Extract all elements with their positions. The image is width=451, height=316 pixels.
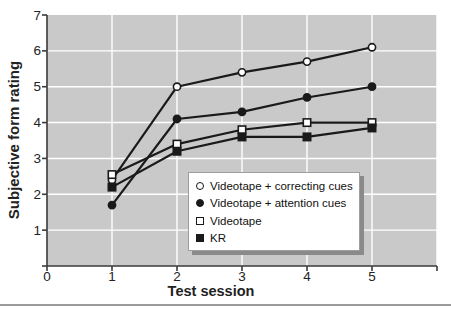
legend-item-videotape-correcting-cues: Videotape + correcting cues bbox=[196, 177, 359, 195]
filled-square-marker bbox=[368, 124, 375, 131]
filled-circle-marker-icon bbox=[196, 199, 204, 207]
page-divider-line bbox=[0, 304, 451, 306]
filled-circle-marker bbox=[173, 115, 180, 122]
chart-figure: 0123451234567 Subjective form rating Tes… bbox=[0, 0, 451, 316]
filled-circle-marker bbox=[303, 94, 310, 101]
open-circle-marker bbox=[368, 44, 375, 51]
legend-label: KR bbox=[210, 232, 226, 244]
line-chart-canvas: 0123451234567 bbox=[0, 0, 451, 316]
x-tick-label: 3 bbox=[238, 269, 246, 284]
x-tick-label: 0 bbox=[43, 269, 51, 284]
open-circle-marker-icon bbox=[196, 182, 204, 190]
legend-label: Videotape bbox=[210, 215, 262, 227]
x-tick-label: 5 bbox=[368, 269, 376, 284]
y-tick-label: 4 bbox=[33, 115, 41, 130]
filled-circle-marker bbox=[368, 83, 375, 90]
filled-square-marker bbox=[108, 183, 115, 190]
open-circle-marker bbox=[303, 58, 310, 65]
open-square-marker bbox=[303, 119, 310, 126]
open-square-marker-icon bbox=[196, 217, 204, 225]
y-tick-label: 1 bbox=[33, 223, 41, 238]
filled-circle-marker bbox=[238, 108, 245, 115]
y-tick-label: 3 bbox=[33, 151, 41, 166]
legend-label: Videotape + correcting cues bbox=[210, 180, 353, 192]
legend-label: Videotape + attention cues bbox=[210, 197, 346, 209]
open-circle-marker bbox=[173, 83, 180, 90]
x-tick-label: 4 bbox=[303, 269, 311, 284]
x-tick-label: 2 bbox=[173, 269, 181, 284]
legend-item-videotape-attention-cues: Videotape + attention cues bbox=[196, 195, 359, 213]
open-square-marker bbox=[173, 140, 180, 147]
filled-circle-marker bbox=[108, 201, 115, 208]
open-square-marker bbox=[108, 171, 115, 178]
y-tick-label: 6 bbox=[33, 43, 41, 58]
open-square-marker bbox=[238, 126, 245, 133]
y-tick-label: 2 bbox=[33, 187, 41, 202]
filled-square-marker bbox=[173, 148, 180, 155]
chart-legend: Videotape + correcting cues Videotape + … bbox=[188, 172, 360, 251]
x-tick-label: 1 bbox=[108, 269, 116, 284]
x-axis-title: Test session bbox=[168, 283, 255, 299]
open-circle-marker bbox=[238, 69, 245, 76]
legend-item-videotape: Videotape bbox=[196, 212, 359, 230]
legend-item-kr: KR bbox=[196, 230, 359, 248]
y-tick-label: 5 bbox=[33, 79, 41, 94]
y-axis-title: Subjective form rating bbox=[5, 61, 22, 219]
filled-square-marker bbox=[303, 133, 310, 140]
filled-square-marker-icon bbox=[196, 234, 204, 242]
y-tick-label: 7 bbox=[33, 8, 41, 23]
filled-square-marker bbox=[238, 133, 245, 140]
